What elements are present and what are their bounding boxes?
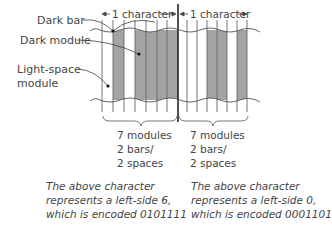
spaces-count: 2 spaces [190,156,245,170]
desc-line: represents a left-side 0, [191,193,332,207]
desc-line: which is encoded 0101111 [46,207,187,221]
dark-bar-label: Dark bar [37,14,85,27]
char1-description: The above character represents a left-si… [46,179,187,221]
bars-count: 2 bars/ [117,142,172,156]
bars-count: 2 bars/ [190,142,245,156]
dark-module [237,30,247,100]
desc-line: which is encoded 0001101 [191,207,332,221]
char2-description: The above character represents a left-si… [191,179,332,221]
dark-module [113,30,124,100]
modules-count: 7 modules [190,128,245,142]
desc-line: represents a left-side 6, [46,193,187,207]
desc-line: The above character [46,179,187,193]
spaces-count: 2 spaces [117,156,172,170]
light-space-label-2: module [17,77,58,90]
dark-module [135,30,178,100]
char2-span-label: 1 character [190,8,250,21]
char1-modules: 7 modules 2 bars/ 2 spaces [117,128,172,170]
modules-count: 7 modules [117,128,172,142]
desc-line: The above character [191,179,332,193]
light-space-label: Light-space [17,63,81,76]
char2-modules: 7 modules 2 bars/ 2 spaces [190,128,245,170]
char1-span-label: 1 character [112,8,172,21]
dark-module-label: Dark module [20,34,91,47]
